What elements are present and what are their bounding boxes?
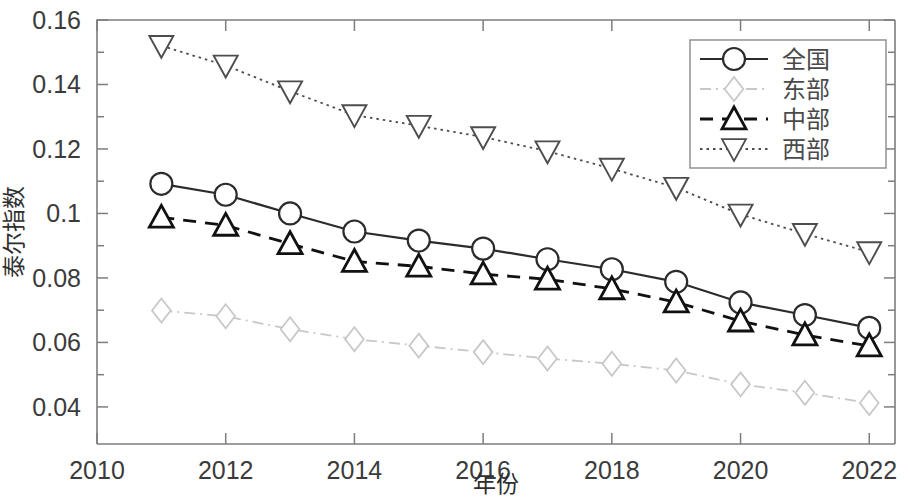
data-point-marker (860, 391, 879, 415)
y-axis-tick-label: 0.08 (32, 264, 81, 292)
x-axis-tick-label: 2022 (841, 456, 897, 484)
chart-legend[interactable]: 全国东部中部西部 (690, 40, 886, 168)
x-axis-tick-label: 2012 (198, 456, 254, 484)
y-axis-tick-label: 0.04 (32, 393, 81, 421)
y-axis-tick-label: 0.06 (32, 328, 81, 356)
series-line (161, 184, 869, 328)
data-point-marker (796, 381, 815, 405)
data-point-marker (215, 184, 237, 206)
series-line (161, 311, 869, 404)
data-point-marker (664, 178, 688, 200)
data-point-marker (152, 299, 171, 323)
theil-index-line-chart: 0.040.060.080.10.120.140.162010201220142… (0, 0, 908, 499)
data-point-marker (474, 340, 493, 364)
data-point-marker (538, 347, 557, 371)
data-point-marker (281, 317, 300, 341)
x-axis-tick-label: 2018 (584, 456, 640, 484)
data-point-marker (278, 232, 302, 254)
data-point-marker (149, 36, 173, 58)
y-axis-tick-label: 0.14 (32, 70, 81, 98)
series-3 (149, 205, 881, 355)
data-point-marker (149, 205, 173, 227)
y-axis-tick-label: 0.12 (32, 135, 81, 163)
data-point-marker (731, 372, 750, 396)
data-point-marker (408, 230, 430, 252)
data-point-marker (279, 202, 301, 224)
x-axis-tick-label: 2020 (713, 456, 769, 484)
series-line (161, 217, 869, 346)
data-point-marker (216, 304, 235, 328)
legend-label: 中部 (782, 106, 830, 134)
data-point-marker (667, 358, 686, 382)
data-point-marker (602, 352, 621, 376)
series-1 (150, 173, 880, 339)
data-point-marker (278, 81, 302, 103)
series-2 (152, 299, 879, 416)
data-point-marker (407, 116, 431, 138)
x-axis-tick-label: 2010 (69, 456, 125, 484)
data-point-marker (729, 205, 753, 227)
legend-label: 全国 (782, 46, 830, 74)
chart-canvas: 0.040.060.080.10.120.140.162010201220142… (0, 0, 908, 499)
legend-label: 东部 (782, 76, 830, 104)
data-point-marker (600, 159, 624, 181)
data-point-marker (793, 224, 817, 246)
data-point-marker (857, 242, 881, 264)
y-axis-tick-label: 0.1 (46, 199, 81, 227)
y-axis-title: 泰尔指数 (1, 186, 27, 278)
data-point-marker (342, 105, 366, 127)
data-point-marker (409, 334, 428, 358)
data-point-marker (471, 127, 495, 149)
data-point-marker (214, 56, 238, 78)
x-axis-title: 年份 (473, 471, 519, 497)
legend-label: 西部 (782, 136, 830, 164)
data-point-marker (472, 238, 494, 260)
y-axis-tick-label: 0.16 (32, 6, 81, 34)
data-point-marker (342, 250, 366, 272)
data-point-marker (345, 327, 364, 351)
data-point-marker (150, 173, 172, 195)
x-axis-tick-label: 2014 (327, 456, 383, 484)
data-point-marker (343, 221, 365, 243)
data-point-marker (535, 141, 559, 163)
legend-marker-sample (723, 48, 745, 70)
